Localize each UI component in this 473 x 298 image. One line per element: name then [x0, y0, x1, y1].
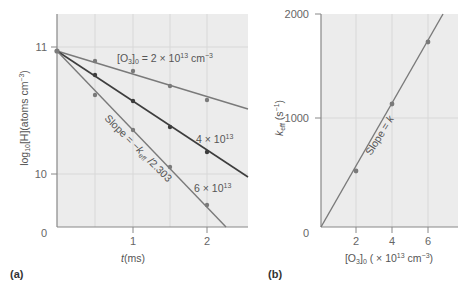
y-axis-label-b: keff (s−1) — [273, 100, 286, 136]
xtick-6-b: 6 — [425, 235, 431, 247]
xtick-1: 1 — [130, 235, 136, 247]
xtick-2-b: 2 — [353, 235, 359, 247]
plot-area-a — [57, 14, 248, 227]
x-axis-label-b: [O3]0 ( × 1013 cm−3) — [345, 252, 433, 265]
y-axis-label-a: log10[H](atoms cm−3) — [18, 70, 31, 166]
panel-label-b: (b) — [268, 268, 282, 280]
xtick-2: 2 — [204, 235, 210, 247]
ytick-10: 10 — [35, 168, 47, 180]
panel-b: 2000 1000 0 2 4 6 [O3]0 ( × 1013 cm−3) k… — [268, 8, 458, 280]
xtick-4-b: 4 — [389, 235, 395, 247]
ytick-2000: 2000 — [285, 8, 309, 20]
panel-a: 11 10 0 1 2 t(ms) log10[H](atoms cm−3) [… — [10, 14, 248, 280]
series-2e13-label: [O3]0 = 2 × 1013 cm−3 — [117, 52, 213, 65]
panel-label-a: (a) — [10, 268, 24, 280]
ytick-11: 11 — [36, 41, 47, 53]
ytick-0-b: 0 — [303, 227, 309, 239]
figure: 11 10 0 1 2 t(ms) log10[H](atoms cm−3) [… — [0, 0, 473, 298]
ytick-0: 0 — [41, 227, 47, 239]
ytick-1000: 1000 — [285, 112, 309, 124]
x-axis-label-a: t(ms) — [121, 252, 145, 264]
